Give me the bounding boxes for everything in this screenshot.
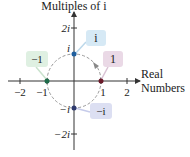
y-tick-label: −i: [60, 103, 70, 115]
callout-neg-i-label: −i: [96, 105, 105, 117]
y-tick-label: −2i: [54, 128, 70, 140]
callout-one: 1: [101, 51, 123, 80]
y-tick-label: i: [67, 42, 70, 54]
point-neg-i: [72, 106, 77, 111]
y-axis-title: Multiples of i: [41, 0, 107, 13]
x-tick-label: 1: [100, 86, 106, 98]
x-axis-title-line1: Real: [141, 67, 164, 81]
y-tick-label: 2i: [61, 22, 70, 34]
point-one: [99, 79, 104, 84]
point-neg-one: [45, 79, 50, 84]
x-tick-label: 2: [124, 86, 130, 98]
x-tick-label: −1: [36, 86, 48, 98]
complex-plane-diagram: i 1 −1 −i Multiples of i −2 −1 1 2 2i i …: [0, 0, 190, 157]
callout-neg-i: −i: [75, 103, 112, 119]
x-tick-label: −2: [14, 86, 26, 98]
callout-neg-one: −1: [26, 51, 48, 80]
x-axis-title-line2: Numbers: [141, 81, 185, 95]
callout-i: i: [75, 30, 106, 54]
callout-neg-one-label: −1: [31, 53, 43, 65]
point-i: [72, 52, 77, 57]
callout-one-label: 1: [110, 52, 116, 66]
